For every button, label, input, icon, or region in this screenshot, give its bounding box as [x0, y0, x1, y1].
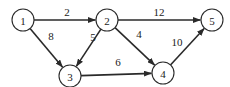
edge-arrow-icon — [115, 28, 155, 66]
node-1: 1 — [12, 9, 34, 31]
edge-weight-label: 2 — [64, 6, 70, 18]
node-label: 1 — [20, 15, 26, 27]
edge-weight-label: 5 — [90, 31, 96, 43]
edge-2-to-3 — [76, 29, 101, 66]
node-label: 4 — [160, 68, 166, 80]
edge-2-to-4 — [115, 28, 155, 66]
node-2: 2 — [96, 9, 118, 31]
edge-weight-label: 12 — [154, 6, 165, 18]
graph-diagram: 12345 285412610 — [0, 0, 230, 87]
edge-weight-label: 8 — [48, 30, 54, 42]
node-label: 3 — [67, 71, 73, 83]
node-5: 5 — [201, 9, 223, 31]
edge-3-to-4 — [81, 73, 152, 75]
node-4: 4 — [152, 62, 174, 84]
node-label: 5 — [209, 15, 215, 27]
edge-arrow-icon — [81, 73, 152, 75]
node-3: 3 — [59, 65, 81, 87]
edge-weight-label: 10 — [172, 36, 184, 48]
edge-weight-label: 6 — [115, 56, 121, 68]
node-label: 2 — [104, 15, 110, 27]
edge-arrow-icon — [76, 29, 101, 66]
edge-weight-label: 4 — [136, 28, 142, 40]
edge-arrow-icon — [30, 28, 63, 67]
edge-1-to-3 — [30, 28, 63, 67]
